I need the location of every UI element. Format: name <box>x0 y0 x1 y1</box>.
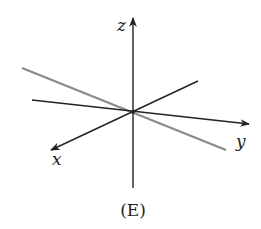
gray-line <box>22 68 226 150</box>
caption: (E) <box>120 200 146 220</box>
y-axis-label: y <box>235 131 246 151</box>
origin-point <box>131 110 135 114</box>
y-axis <box>32 100 249 124</box>
z-axis-label: z <box>116 15 127 35</box>
diagram-canvas: z y x (E) <box>0 0 261 229</box>
x-axis-label: x <box>52 149 62 169</box>
